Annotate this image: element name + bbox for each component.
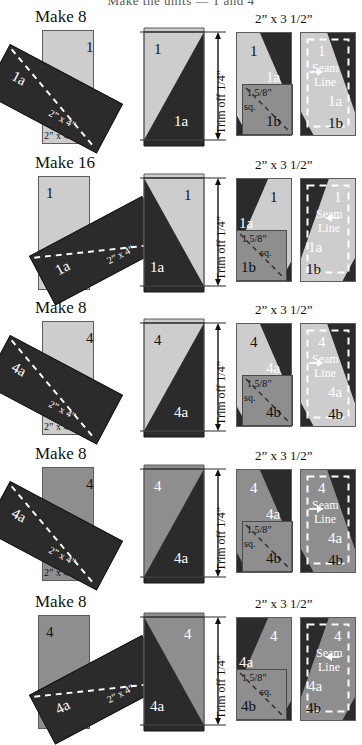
panel-trimmed-unit: 44a4b1 5/8”sq. xyxy=(236,323,292,427)
pressed-patch-number: 1a xyxy=(174,114,188,129)
make-count-label: Make 8 xyxy=(35,445,86,462)
seam-patch-number: 1a xyxy=(308,240,322,255)
panel-seam-line-unit: 44a4bSeamLine xyxy=(300,617,356,721)
panel-layered-strips: 12” x 4”1a2” x 4” xyxy=(0,26,134,146)
make-count-label: Make 16 xyxy=(35,154,95,171)
corner-square-number: 1b xyxy=(266,114,281,129)
make-count-label: Make 8 xyxy=(35,8,86,25)
pressed-patch-number: 4a xyxy=(174,551,188,566)
seam-line-label-line1: Seam xyxy=(312,353,339,365)
corner-square-number: 4b xyxy=(241,699,256,714)
panel-trimmed-unit: 11a1b1 5/8”sq. xyxy=(236,32,292,136)
trim-off-label: Trim off 1/4” xyxy=(214,655,229,719)
trimmed-patch-number: 1a xyxy=(266,70,280,85)
seam-base-number: 4 xyxy=(318,481,326,496)
trim-off-label: Trim off 1/4” xyxy=(214,216,229,280)
pressed-patch-number: 4a xyxy=(150,699,164,714)
panel-seam-line-unit: 11a1bSeamLine xyxy=(300,178,356,282)
square-size-label-line2: sq. xyxy=(244,102,255,112)
panel-seam-line-unit: 11a1bSeamLine xyxy=(300,32,356,136)
seam-corner-number: 4b xyxy=(328,407,343,422)
square-size-label-line1: 1 5/8” xyxy=(247,379,272,389)
seam-patch-number: 4a xyxy=(328,385,342,400)
pressed-base-number: 4 xyxy=(154,479,162,494)
trimmed-size-label: 2” x 3 1/2” xyxy=(255,12,312,25)
pressed-base-number: 1 xyxy=(154,42,162,57)
base-strip-number: 4 xyxy=(86,477,94,492)
square-size-label-line1: 1 5/8” xyxy=(242,234,267,244)
instruction-row: Make 82” x 3 1/2”42” x 4”4a2” x 4”44aTri… xyxy=(0,437,362,583)
square-size-label-line2: sq. xyxy=(260,687,271,697)
panel-layered-strips: 42” x 4”4a2” x 4” xyxy=(0,611,134,731)
seam-corner-number: 1b xyxy=(306,262,321,277)
pressed-patch-number: 1a xyxy=(150,260,164,275)
seam-line-label-line2: Line xyxy=(314,367,336,379)
trimmed-size-label: 2” x 3 1/2” xyxy=(255,449,312,462)
base-strip-number: 1 xyxy=(86,40,94,55)
instruction-row: Make 162” x 3 1/2”12” x 4”1a2” x 4”11aTr… xyxy=(0,146,362,292)
pressed-base-number: 4 xyxy=(184,627,192,642)
base-strip-number: 1 xyxy=(46,186,54,201)
panel-pressed-unit: 44aTrim off 1/4” xyxy=(140,463,236,583)
seam-line-label-line2: Line xyxy=(314,513,336,525)
seam-line-label-line1: Seam xyxy=(312,62,339,74)
seam-line-label-line1: Seam xyxy=(312,499,339,511)
panel-pressed-unit: 11aTrim off 1/4” xyxy=(140,172,236,292)
seam-base-number: 1 xyxy=(318,44,326,59)
pressed-patch-number: 4a xyxy=(174,405,188,420)
square-size-label-line1: 1 5/8” xyxy=(247,88,272,98)
trimmed-base-number: 1 xyxy=(250,44,258,59)
corner-square-number: 4b xyxy=(266,551,281,566)
pressed-base-number: 4 xyxy=(154,333,162,348)
panel-trimmed-unit: 11a1b1 5/8”sq. xyxy=(236,178,292,282)
seam-corner-number: 4b xyxy=(328,553,343,568)
trimmed-base-number: 4 xyxy=(250,481,258,496)
square-size-label-line2: sq. xyxy=(244,393,255,403)
base-strip-number: 4 xyxy=(86,331,94,346)
seam-line-label-line1: Seam xyxy=(316,647,343,659)
seam-line-label-line2: Line xyxy=(318,222,340,234)
seam-base-number: 1 xyxy=(334,190,342,205)
trimmed-size-label: 2” x 3 1/2” xyxy=(255,303,312,316)
panel-trimmed-unit: 44a4b1 5/8”sq. xyxy=(236,617,292,721)
seam-corner-number: 1b xyxy=(328,116,343,131)
panel-seam-line-unit: 44a4bSeamLine xyxy=(300,323,356,427)
square-size-label-line1: 1 5/8” xyxy=(247,525,272,535)
square-size-label-line2: sq. xyxy=(260,248,271,258)
instruction-row: Make 82” x 3 1/2”42” x 4”4a2” x 4”44aTri… xyxy=(0,291,362,437)
seam-line-label-line2: Line xyxy=(314,76,336,88)
trimmed-base-number: 1 xyxy=(270,190,278,205)
panel-pressed-unit: 44aTrim off 1/4” xyxy=(140,611,236,731)
panel-layered-strips: 42” x 4”4a2” x 4” xyxy=(0,317,134,437)
corner-square-number: 1b xyxy=(241,260,256,275)
instruction-row: Make 82” x 3 1/2”12” x 4”1a2” x 4”11aTri… xyxy=(0,0,362,146)
panel-trimmed-unit: 44a4b1 5/8”sq. xyxy=(236,469,292,573)
seam-corner-number: 4b xyxy=(306,701,321,716)
panel-layered-strips: 12” x 4”1a2” x 4” xyxy=(0,172,134,292)
base-strip-number: 4 xyxy=(46,625,54,640)
seam-line-label-line1: Seam xyxy=(316,208,343,220)
trimmed-base-number: 4 xyxy=(270,629,278,644)
seam-base-number: 4 xyxy=(318,335,326,350)
trimmed-size-label: 2” x 3 1/2” xyxy=(255,158,312,171)
trim-off-label: Trim off 1/4” xyxy=(214,507,229,571)
seam-patch-number: 4a xyxy=(308,679,322,694)
trimmed-patch-number: 1a xyxy=(239,216,253,231)
trimmed-patch-number: 4a xyxy=(266,507,280,522)
panel-seam-line-unit: 44a4bSeamLine xyxy=(300,469,356,573)
trimmed-base-number: 4 xyxy=(250,335,258,350)
make-count-label: Make 8 xyxy=(35,299,86,316)
panel-layered-strips: 42” x 4”4a2” x 4” xyxy=(0,463,134,583)
trim-off-label: Trim off 1/4” xyxy=(214,70,229,134)
square-size-label-line1: 1 5/8” xyxy=(242,673,267,683)
make-count-label: Make 8 xyxy=(35,593,86,610)
seam-base-number: 4 xyxy=(334,629,342,644)
trimmed-patch-number: 4a xyxy=(239,655,253,670)
corner-square-number: 4b xyxy=(266,405,281,420)
trimmed-size-label: 2” x 3 1/2” xyxy=(255,597,312,610)
seam-line-label-line2: Line xyxy=(318,661,340,673)
pressed-base-number: 1 xyxy=(184,188,192,203)
seam-patch-number: 4a xyxy=(328,531,342,546)
seam-patch-number: 1a xyxy=(328,94,342,109)
